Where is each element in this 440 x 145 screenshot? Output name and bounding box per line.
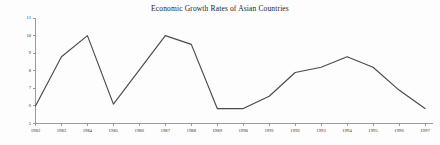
y-tick-label: 7 <box>29 85 32 90</box>
x-tick-label: 1984 <box>83 128 93 133</box>
x-tick-label: 1990 <box>238 128 248 133</box>
x-tick-label: 1989 <box>212 128 222 133</box>
x-tick-label: 1992 <box>290 128 300 133</box>
x-tick-label: 1986 <box>135 128 145 133</box>
x-tick-labels: 1982198319841985198619871988198919901991… <box>31 128 431 133</box>
y-tick-label: 5 <box>29 121 32 126</box>
line-chart-plot: 567891011 198219831984198519861987198819… <box>0 0 440 145</box>
chart-figure: Economic Growth Rates of Asian Countries… <box>0 0 440 145</box>
y-tick-label: 6 <box>29 103 32 108</box>
x-tick-label: 1983 <box>57 128 67 133</box>
x-tick-label: 1982 <box>31 128 41 133</box>
x-tick-label: 1991 <box>264 128 274 133</box>
x-axis <box>36 124 434 127</box>
x-tick-label: 1985 <box>109 128 119 133</box>
x-tick-label: 1994 <box>342 128 352 133</box>
y-tick-label: 11 <box>27 15 32 20</box>
y-tick-label: 8 <box>29 68 32 73</box>
x-tick-label: 1995 <box>368 128 378 133</box>
data-series-group <box>36 36 426 109</box>
y-tick-labels: 567891011 <box>26 15 31 126</box>
x-tick-label: 1987 <box>161 128 171 133</box>
x-tick-label: 1988 <box>187 128 197 133</box>
x-tick-label: 1996 <box>394 128 404 133</box>
y-tick-label: 9 <box>29 50 32 55</box>
y-axis <box>33 18 36 124</box>
x-tick-label: 1993 <box>316 128 326 133</box>
data-line-economic-growth-rate <box>36 36 426 109</box>
x-tick-label: 1997 <box>420 128 430 133</box>
y-tick-label: 10 <box>26 33 31 38</box>
